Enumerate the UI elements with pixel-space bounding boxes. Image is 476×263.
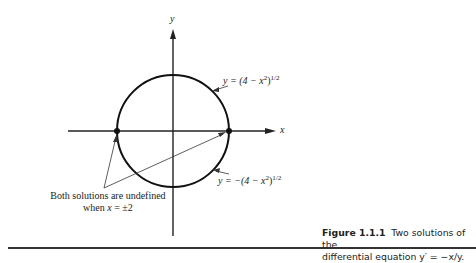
annotation-line-1: Both solutions are undefined	[49, 190, 167, 202]
y-axis-arrow-icon	[170, 29, 176, 39]
figure-number: Figure 1.1.1	[322, 227, 385, 238]
upper-curve-label-exp: 1/2	[271, 74, 280, 82]
figure-caption: Figure 1.1.1 Two solutions of the differ…	[322, 227, 476, 263]
caption-line-2: differential equation y′ = −x/y.	[322, 251, 476, 263]
pointer-line-right	[104, 134, 223, 188]
undefined-point-left	[114, 128, 120, 134]
lower-curve-label: y = −(4 − x2)1/2	[218, 174, 281, 186]
bottom-rule	[8, 247, 476, 249]
x-axis-label: x	[280, 124, 284, 135]
x-axis-arrow-icon	[265, 128, 276, 134]
y-axis-label: y	[170, 13, 174, 24]
annotation-line-2: when x = ±2	[49, 202, 167, 214]
undefined-annotation: Both solutions are undefined when x = ±2	[49, 190, 167, 214]
pointer-line-left	[104, 137, 116, 188]
upper-curve-label: y = (4 − x2)1/2	[223, 74, 280, 86]
lower-curve-label-text: y = −(4 − x	[218, 175, 265, 186]
undefined-point-right	[226, 128, 232, 134]
lower-curve-label-exp: 1/2	[272, 174, 281, 182]
pointer-arrow-right-icon	[218, 132, 226, 137]
upper-curve-label-text: y = (4 − x	[223, 75, 264, 86]
